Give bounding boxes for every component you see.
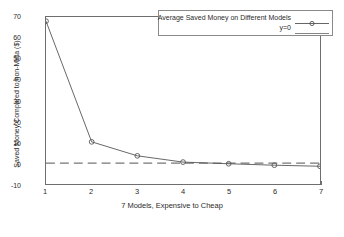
x-tick-label: 3 [135, 188, 139, 196]
series-markers [46, 19, 320, 169]
chart-figure: Saved Money Compared to non-Meta ($) 70 … [0, 0, 344, 237]
legend-line-marker-icon [295, 14, 329, 23]
y-tick-label: 30 [13, 97, 21, 104]
x-tick-label: 5 [227, 188, 231, 196]
plot-area [45, 16, 321, 185]
x-tick-label: 7 [319, 188, 323, 196]
y-tick-label: -10 [11, 182, 21, 189]
y-tick-label: 70 [13, 13, 21, 20]
x-tick-mark [321, 181, 322, 185]
legend-item-zero-line: y=0 [159, 23, 329, 33]
y-tick-label: 0 [17, 160, 21, 167]
x-axis-label: 7 Models, Expensive to Cheap [0, 201, 344, 210]
x-tick-label: 2 [89, 188, 93, 196]
y-tick-label: 40 [13, 76, 21, 83]
x-tick-label: 6 [273, 188, 277, 196]
legend-label: Average Saved Money on Different Models [158, 14, 295, 22]
y-tick-label: 20 [13, 118, 21, 125]
legend-item-series: Average Saved Money on Different Models [159, 13, 329, 23]
legend: Average Saved Money on Different Models … [158, 10, 333, 36]
y-tick-label: 60 [13, 34, 21, 41]
series-line-average-saved-money [46, 21, 320, 166]
series-plot [46, 17, 320, 184]
legend-line-icon [295, 24, 329, 33]
x-tick-label: 1 [43, 188, 47, 196]
legend-label: y=0 [280, 24, 295, 32]
x-tick-label: 4 [181, 188, 185, 196]
y-tick-label: 50 [13, 55, 21, 62]
y-tick-label: 10 [13, 139, 21, 146]
